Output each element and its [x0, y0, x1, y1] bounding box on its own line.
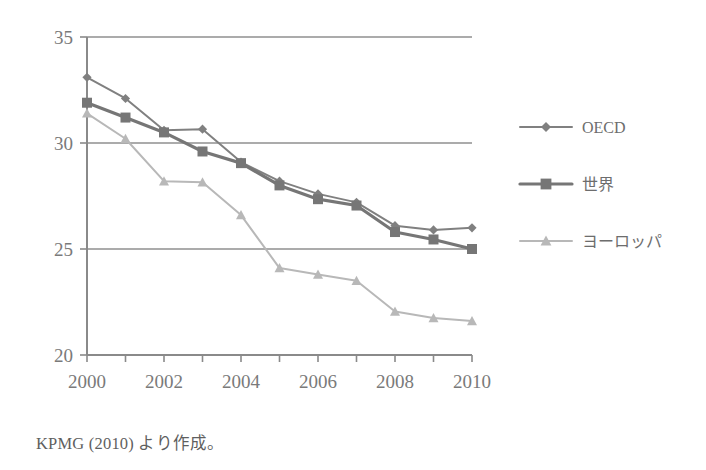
data-point-OECD-2010	[467, 223, 476, 232]
series-OECD	[82, 73, 476, 235]
y-tick-label-35: 35	[54, 27, 73, 48]
x-tick-label-2000: 2000	[68, 371, 106, 392]
legend-marker-OECD	[541, 122, 551, 132]
x-tick-label-2006: 2006	[299, 371, 337, 392]
data-point-ヨーロッパ-2000	[82, 108, 92, 117]
legend-label-OECD: OECD	[582, 119, 626, 136]
axis-ticks	[80, 37, 472, 362]
legend-marker-世界	[541, 179, 552, 190]
data-point-世界-2008	[390, 227, 400, 237]
data-series-layer	[82, 73, 477, 326]
legend-label-世界: 世界	[582, 176, 614, 193]
data-point-世界-2001	[121, 113, 131, 123]
x-tick-label-2004: 2004	[222, 371, 261, 392]
series-line-ヨーロッパ	[87, 113, 472, 321]
gridlines	[87, 37, 472, 355]
series-ヨーロッパ	[82, 108, 477, 325]
chart-figure: 20253035 200020022004200620082010 OECD世界…	[0, 0, 706, 470]
data-point-世界-2007	[352, 201, 362, 211]
series-line-OECD	[87, 77, 472, 230]
x-tick-label-2008: 2008	[376, 371, 414, 392]
y-axis-tick-labels: 20253035	[54, 27, 73, 366]
data-point-OECD-2000	[82, 73, 91, 82]
data-point-世界-2009	[429, 234, 439, 244]
data-point-OECD-2009	[429, 225, 438, 234]
data-point-世界-2000	[82, 98, 92, 108]
data-point-世界-2006	[313, 194, 323, 204]
legend-item-ヨーロッパ[interactable]: ヨーロッパ	[520, 233, 662, 250]
line-chart: 20253035 200020022004200620082010 OECD世界…	[0, 0, 706, 470]
data-point-世界-2010	[467, 244, 477, 254]
legend-item-OECD[interactable]: OECD	[520, 119, 626, 136]
series-世界	[82, 98, 477, 254]
chart-legend: OECD世界ヨーロッパ	[520, 119, 662, 250]
data-point-世界-2004	[236, 158, 246, 168]
legend-item-世界[interactable]: 世界	[520, 176, 614, 193]
figure-caption: KPMG (2010) より作成。	[36, 430, 224, 454]
x-axis-tick-labels: 200020022004200620082010	[68, 371, 491, 392]
x-tick-label-2002: 2002	[145, 371, 183, 392]
y-tick-label-30: 30	[54, 133, 73, 154]
axis-lines	[87, 37, 472, 355]
y-tick-label-25: 25	[54, 239, 73, 260]
data-point-世界-2003	[198, 146, 208, 156]
x-tick-label-2010: 2010	[453, 371, 491, 392]
y-tick-label-20: 20	[54, 345, 73, 366]
data-point-ヨーロッパ-2001	[121, 134, 131, 143]
data-point-世界-2002	[159, 127, 169, 137]
data-point-世界-2005	[275, 180, 285, 190]
legend-label-ヨーロッパ: ヨーロッパ	[582, 233, 662, 250]
